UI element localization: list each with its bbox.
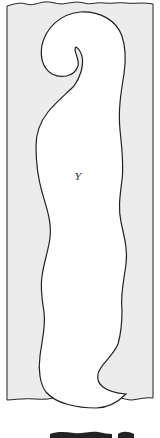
next-panel-fragment	[50, 432, 112, 438]
region-y-shape	[36, 12, 127, 408]
diagram-canvas: Y	[0, 0, 160, 438]
next-panel-fragment-right	[118, 432, 134, 438]
